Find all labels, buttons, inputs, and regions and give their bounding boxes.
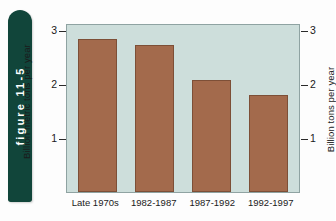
axis-tick-mark: [301, 139, 308, 140]
x-axis-tick-label: 1992-1997: [243, 197, 298, 208]
axis-tick-label: 1: [47, 132, 57, 144]
bar: [78, 39, 118, 192]
x-axis-tick-labels: Late 1970s1982-19871987-19921992-1997: [66, 197, 300, 208]
axis-tick-mark: [301, 31, 308, 32]
x-axis-tick-label: 1982-1987: [126, 197, 181, 208]
axis-tick-label: 3: [47, 24, 57, 36]
axis-tick-mark: [59, 85, 66, 86]
bar-series: [67, 25, 299, 192]
y-axis-label-right: Billion tons per year: [325, 40, 336, 180]
x-axis-tick-label: Late 1970s: [68, 197, 123, 208]
bar-slot: [242, 25, 296, 192]
axis-tick-mark: [59, 31, 66, 32]
y-axis-label-left: Billion metric tons per year: [21, 32, 32, 172]
bar-slot: [185, 25, 239, 192]
bar: [135, 45, 175, 192]
axis-tick-label: 2: [310, 78, 322, 90]
x-axis-tick-label: 1987-1992: [185, 197, 240, 208]
bar-slot: [71, 25, 125, 192]
plot-area: [66, 24, 300, 193]
bar-slot: [128, 25, 182, 192]
plot-inner: [67, 25, 299, 192]
bar: [249, 95, 289, 192]
bar: [192, 80, 232, 192]
axis-tick-label: 1: [310, 132, 322, 144]
axis-tick-mark: [59, 139, 66, 140]
axis-tick-mark: [301, 85, 308, 86]
axis-tick-label: 3: [310, 24, 322, 36]
axis-tick-label: 2: [47, 78, 57, 90]
